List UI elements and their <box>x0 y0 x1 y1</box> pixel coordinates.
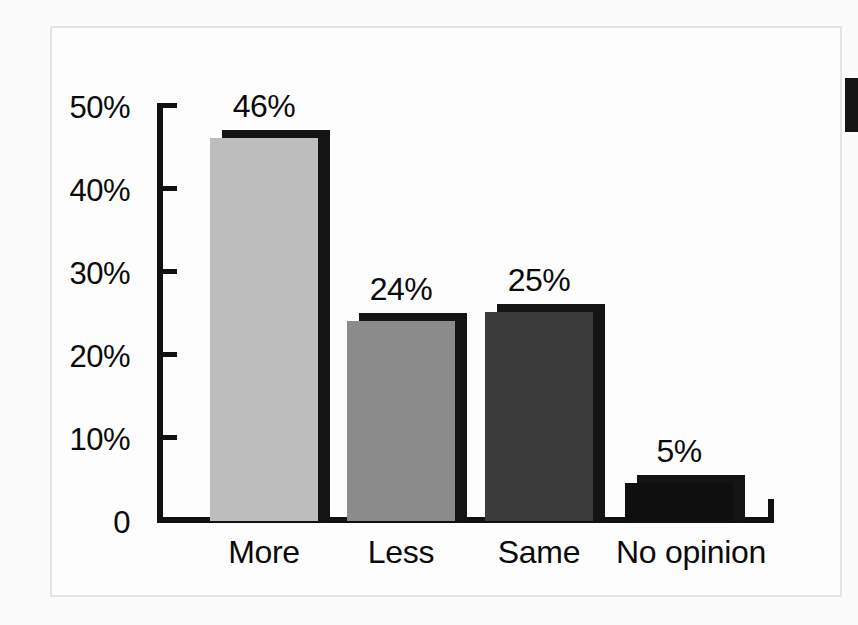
y-axis-tick-20 <box>157 352 177 357</box>
x-axis-category-same: Same <box>469 534 609 571</box>
x-axis-category-less: Less <box>331 534 471 571</box>
x-axis-category-more: More <box>194 534 334 571</box>
bar-less-face <box>347 321 455 521</box>
bar-same-face <box>485 312 593 521</box>
y-axis-line <box>157 103 163 523</box>
scanned-page: 50% 40% 30% 20% 10% 0 46% 24% 25% <box>0 0 858 625</box>
y-axis-label-40: 40% <box>30 173 130 209</box>
x-axis-category-no-opinion: No opinion <box>596 534 786 571</box>
y-axis-label-10: 10% <box>30 422 130 458</box>
bar-less-value-label: 24% <box>331 271 471 308</box>
y-axis-label-0: 0 <box>30 505 130 541</box>
y-axis-tick-10 <box>157 435 177 440</box>
bar-more-value-label: 46% <box>194 88 334 125</box>
y-axis-label-20: 20% <box>30 339 130 375</box>
y-axis-tick-40 <box>157 186 177 191</box>
bar-more-face <box>210 138 318 521</box>
bar-no-opinion-value-label: 5% <box>609 433 749 470</box>
bar-chart: 50% 40% 30% 20% 10% 0 46% 24% 25% <box>0 0 858 625</box>
bar-no-opinion-face <box>625 483 733 521</box>
y-axis-label-30: 30% <box>30 256 130 292</box>
y-axis-top-cap <box>157 103 177 108</box>
y-axis-tick-30 <box>157 269 177 274</box>
bar-same-value-label: 25% <box>469 262 609 299</box>
x-axis-right-cap <box>768 499 774 523</box>
y-axis-label-50: 50% <box>30 90 130 126</box>
